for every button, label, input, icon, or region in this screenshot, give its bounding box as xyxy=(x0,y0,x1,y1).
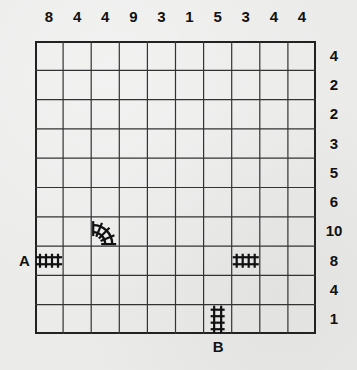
track-layer xyxy=(0,0,357,370)
track-piece-vertical-straight xyxy=(211,306,225,333)
track-piece-horizontal-straight xyxy=(233,254,259,268)
exit-label: B xyxy=(213,338,224,355)
track-piece-horizontal-straight xyxy=(36,254,62,268)
track-piece-curve-top-right xyxy=(93,221,116,244)
entrance-label: A xyxy=(19,252,30,269)
